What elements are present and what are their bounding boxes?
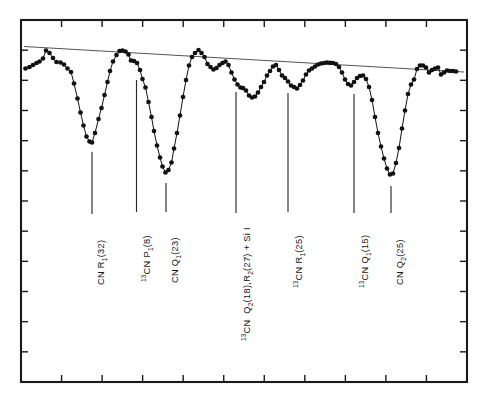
spectrum-plot-canvas bbox=[0, 0, 487, 410]
plot-frame bbox=[21, 20, 467, 382]
data-point bbox=[143, 85, 148, 90]
data-point bbox=[126, 52, 131, 57]
data-point bbox=[229, 70, 234, 75]
data-point bbox=[175, 131, 180, 136]
data-point bbox=[54, 60, 59, 65]
data-point bbox=[268, 69, 273, 74]
data-point bbox=[352, 80, 357, 85]
data-point bbox=[232, 77, 237, 82]
continuum-line bbox=[24, 47, 464, 73]
data-point bbox=[69, 70, 74, 75]
data-point bbox=[172, 146, 177, 151]
data-point bbox=[75, 96, 80, 101]
data-point bbox=[51, 56, 56, 61]
data-point bbox=[169, 160, 174, 165]
data-point bbox=[152, 129, 157, 134]
data-point bbox=[41, 56, 46, 61]
data-point bbox=[190, 55, 195, 60]
data-point bbox=[385, 166, 390, 171]
data-point bbox=[394, 161, 399, 166]
data-point bbox=[298, 83, 303, 88]
data-point bbox=[184, 78, 189, 83]
data-point bbox=[105, 80, 110, 85]
data-point bbox=[102, 93, 107, 98]
data-point bbox=[412, 77, 417, 82]
data-point bbox=[99, 106, 104, 111]
data-point bbox=[93, 131, 98, 136]
data-point bbox=[62, 62, 67, 67]
data-point bbox=[81, 123, 86, 128]
data-point bbox=[181, 95, 186, 100]
data-point bbox=[166, 168, 171, 173]
data-point bbox=[436, 65, 441, 70]
data-point bbox=[160, 164, 165, 169]
data-point bbox=[400, 126, 405, 131]
data-point bbox=[379, 144, 384, 149]
data-point bbox=[138, 68, 143, 73]
data-point bbox=[454, 69, 459, 74]
data-point bbox=[146, 100, 151, 105]
spectrum-data-markers bbox=[23, 48, 458, 177]
data-point bbox=[262, 80, 267, 85]
data-point bbox=[140, 77, 145, 82]
data-point bbox=[367, 85, 372, 90]
data-point bbox=[391, 171, 396, 176]
data-point bbox=[114, 53, 119, 58]
data-point bbox=[96, 117, 101, 122]
data-point bbox=[409, 82, 414, 87]
data-point bbox=[84, 134, 89, 139]
spectrum-figure: CN R1(32)13CN P1(8)CN Q1(23)13CN Q2(18),… bbox=[0, 0, 487, 410]
data-point bbox=[158, 155, 163, 160]
data-point bbox=[406, 92, 411, 97]
data-point bbox=[178, 113, 183, 118]
data-point bbox=[364, 77, 369, 82]
data-point bbox=[376, 131, 381, 136]
data-point bbox=[187, 63, 192, 68]
data-point bbox=[424, 65, 429, 70]
data-point bbox=[343, 77, 348, 82]
data-point bbox=[78, 110, 83, 115]
spectrum-curve bbox=[26, 50, 457, 175]
data-point bbox=[135, 61, 140, 66]
plot-frame-rect bbox=[21, 20, 467, 382]
data-point bbox=[23, 66, 28, 71]
continuum-trend-line bbox=[24, 47, 464, 73]
data-point bbox=[226, 63, 231, 68]
data-point bbox=[337, 65, 342, 70]
data-point bbox=[244, 88, 249, 93]
data-point bbox=[253, 94, 258, 99]
data-point bbox=[47, 51, 52, 56]
data-point bbox=[286, 79, 291, 84]
data-point bbox=[259, 85, 264, 90]
data-point bbox=[274, 63, 279, 68]
data-point bbox=[111, 59, 116, 64]
data-point bbox=[199, 51, 204, 56]
data-point bbox=[277, 68, 282, 73]
axis-ticks bbox=[21, 20, 467, 382]
data-point bbox=[301, 78, 306, 83]
spectrum-polyline bbox=[26, 50, 457, 175]
data-point bbox=[373, 115, 378, 120]
data-point bbox=[370, 98, 375, 103]
data-point bbox=[108, 69, 113, 74]
data-point bbox=[304, 72, 309, 77]
data-point bbox=[65, 66, 70, 71]
data-point bbox=[256, 90, 261, 95]
data-point bbox=[202, 55, 207, 60]
data-point bbox=[403, 108, 408, 113]
data-point bbox=[397, 146, 402, 151]
data-point bbox=[155, 143, 160, 148]
data-point bbox=[382, 156, 387, 161]
data-point bbox=[72, 81, 77, 86]
data-point bbox=[340, 70, 345, 75]
data-point bbox=[265, 73, 270, 78]
data-point bbox=[90, 140, 95, 145]
data-point bbox=[149, 115, 154, 120]
annotation-pointer-lines bbox=[92, 80, 391, 214]
